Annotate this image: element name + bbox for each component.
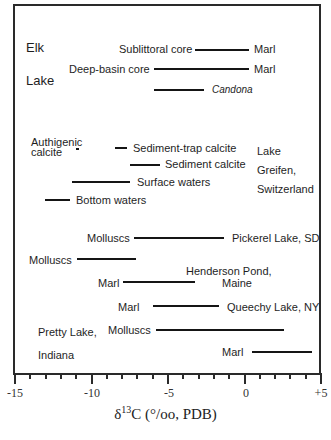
site-label-elk: Elk bbox=[26, 41, 44, 55]
range-bar-pickerel-molluscs bbox=[134, 237, 224, 239]
range-bar-deep-basin-marl bbox=[154, 68, 249, 70]
minor-tick bbox=[228, 373, 230, 379]
range-bar-candona bbox=[154, 89, 204, 91]
label-calcite: calcite bbox=[31, 146, 62, 158]
minor-tick bbox=[136, 373, 138, 379]
label-candona: Candona bbox=[212, 84, 253, 96]
site-label-henderson-1: Henderson Pond, bbox=[186, 265, 272, 277]
label-marl-deep-basin: Marl bbox=[254, 63, 275, 75]
range-bar-pretty-marl bbox=[252, 351, 312, 353]
label-marl-henderson: Marl bbox=[98, 277, 119, 289]
minor-tick bbox=[274, 373, 276, 379]
label-molluscs-pickerel: Molluscs bbox=[87, 232, 130, 244]
site-label-greifen-2: Greifen, bbox=[257, 164, 296, 176]
carbon-isotope-range-chart: Elk Lake Sublittoral core Marl Deep-basi… bbox=[0, 0, 331, 440]
range-bar-henderson-molluscs bbox=[77, 258, 136, 260]
tick-label-minus-15: -15 bbox=[7, 386, 23, 401]
range-bar-pretty-molluscs bbox=[156, 329, 284, 331]
site-label-pickerel: Pickerel Lake, SD bbox=[232, 232, 319, 244]
minor-tick bbox=[29, 373, 31, 379]
range-bar-henderson-marl bbox=[123, 281, 195, 283]
range-bar-sediment-calcite bbox=[130, 164, 160, 166]
site-label-queechy: Queechy Lake, NY bbox=[227, 301, 319, 313]
tick-label-plus-5: +5 bbox=[315, 386, 328, 401]
label-molluscs-henderson: Molluscs bbox=[29, 254, 72, 266]
minor-tick bbox=[182, 373, 184, 379]
major-tick bbox=[167, 373, 169, 384]
minor-tick bbox=[289, 373, 291, 379]
tick-label-minus-10: -10 bbox=[84, 386, 100, 401]
range-bar-sediment-trap bbox=[115, 147, 127, 149]
minor-tick bbox=[213, 373, 215, 379]
label-marl-sublittoral: Marl bbox=[254, 43, 275, 55]
major-tick bbox=[91, 373, 93, 384]
range-bar-surface-waters bbox=[72, 181, 130, 183]
minor-tick bbox=[152, 373, 154, 379]
tick-label-minus-5: -5 bbox=[164, 386, 174, 401]
minor-tick bbox=[198, 373, 200, 379]
major-tick bbox=[244, 373, 246, 384]
minor-tick bbox=[75, 373, 77, 379]
label-bottom-waters: Bottom waters bbox=[76, 194, 146, 206]
tick-label-0: 0 bbox=[243, 386, 249, 401]
label-sediment-calcite: Sediment calcite bbox=[165, 158, 246, 170]
x-axis-title: δ13C (°/oo, PDB) bbox=[0, 404, 331, 423]
major-tick bbox=[320, 373, 322, 384]
site-label-lake: Lake bbox=[26, 74, 54, 88]
isotope-superscript: 13 bbox=[121, 404, 131, 415]
site-label-henderson-2: Maine bbox=[222, 277, 252, 289]
site-label-pretty-1: Pretty Lake, bbox=[38, 326, 97, 338]
range-point-authigenic-calcite bbox=[76, 148, 79, 150]
label-deep-basin-core: Deep-basin core bbox=[69, 63, 150, 75]
range-bar-bottom-waters bbox=[45, 199, 70, 201]
major-tick bbox=[14, 373, 16, 384]
minor-tick bbox=[60, 373, 62, 379]
x-axis-units: C (°/oo, PDB) bbox=[131, 406, 217, 422]
label-marl-pretty: Marl bbox=[222, 346, 243, 358]
minor-tick bbox=[45, 373, 47, 379]
label-marl-queechy: Marl bbox=[118, 301, 139, 313]
minor-tick bbox=[106, 373, 108, 379]
range-bar-sublittoral-marl bbox=[195, 49, 249, 51]
minor-tick bbox=[259, 373, 261, 379]
site-label-greifen-3: Switzerland bbox=[257, 183, 314, 195]
site-label-pretty-2: Indiana bbox=[38, 349, 74, 361]
range-bar-queechy-marl bbox=[153, 305, 219, 307]
label-sediment-trap-calcite: Sediment-trap calcite bbox=[133, 142, 236, 154]
label-sublittoral-core: Sublittoral core bbox=[119, 43, 192, 55]
minor-tick bbox=[305, 373, 307, 379]
minor-tick bbox=[121, 373, 123, 379]
label-surface-waters: Surface waters bbox=[137, 176, 210, 188]
label-molluscs-pretty: Molluscs bbox=[108, 324, 151, 336]
site-label-greifen-1: Lake bbox=[257, 145, 281, 157]
